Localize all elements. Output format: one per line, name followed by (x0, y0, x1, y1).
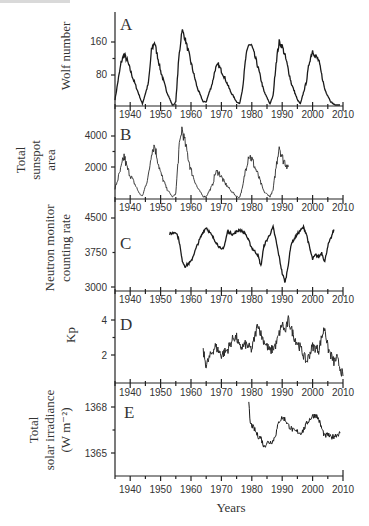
x-tick-label: 1950 (149, 109, 172, 120)
panel-c: C Neutron monitor counting rate 4500 375… (42, 204, 334, 293)
kp-index-line (203, 316, 343, 377)
x-tick-label: 1980 (241, 202, 264, 213)
x-tick-label: 2000 (301, 387, 324, 398)
wolf-number-line (115, 29, 340, 105)
x-tick-label: 1970 (210, 294, 233, 305)
x-tick-label: 2000 (301, 484, 324, 495)
panel-b: B Total sunspot area 4000 2000 (13, 125, 288, 198)
panel-a: A Wolf number 160 80 (58, 15, 340, 105)
x-tick-label: 1950 (149, 294, 172, 305)
x-tick-label: 1960 (180, 109, 203, 120)
y-tick-c-3000: 3000 (85, 282, 108, 293)
x-tick-label: 1970 (210, 484, 233, 495)
x-tick-label: 1990 (271, 109, 294, 120)
x-tick-label: 1950 (149, 387, 172, 398)
x-tick-label: 1970 (210, 387, 233, 398)
x-tick-label: 1990 (271, 387, 294, 398)
panel-letter-e: E (124, 403, 134, 422)
y-tick-e-1368: 1368 (85, 402, 108, 413)
x-tick-label: 1990 (271, 294, 294, 305)
x-tick-label: 1950 (149, 484, 172, 495)
neutron-monitor-line (170, 226, 334, 282)
solar-activity-multipanel-chart: A Wolf number 160 80 B Total sunspot are… (0, 0, 369, 526)
x-tick-label: 1970 (210, 109, 233, 120)
x-tick-label: 1950 (149, 202, 172, 213)
panel-letter-c: C (120, 234, 131, 253)
y-axis-title-a: Wolf number (58, 21, 73, 90)
y-axis-title-c-line2: counting rate (58, 214, 73, 282)
y-axis-title-c-line1: Neutron monitor (42, 204, 57, 292)
y-tick-b-2000: 2000 (85, 162, 108, 173)
panel-letter-a: A (120, 15, 133, 34)
x-tick-label: 1960 (180, 484, 203, 495)
x-tick-label: 1960 (180, 202, 203, 213)
y-tick-c-4500: 4500 (85, 212, 108, 223)
x-tick-label: 1990 (271, 484, 294, 495)
x-tick-label: 1940 (119, 109, 142, 120)
x-tick-label: 2010 (332, 484, 355, 495)
panel-d: D Kp 4 2 (63, 315, 343, 376)
y-axis-title-e-line3: (W m⁻²) (58, 408, 73, 453)
x-tick-label: 2010 (332, 109, 355, 120)
panel-letter-d: D (120, 315, 132, 334)
sunspot-area-line (115, 127, 288, 198)
panel-letter-b: B (120, 125, 131, 144)
x-tick-label: 1960 (180, 387, 203, 398)
x-tick-label: 1990 (271, 202, 294, 213)
x-tick-labels-group: 1940195019601970198019902000201019401950… (119, 109, 354, 495)
y-tick-a-80: 80 (96, 69, 108, 80)
y-axis-title-d: Kp (63, 327, 78, 343)
y-tick-d-2: 2 (101, 350, 107, 361)
x-tick-label: 2000 (301, 294, 324, 305)
y-tick-c-3750: 3750 (85, 247, 108, 258)
y-axis-title-b-line2: sunspot (28, 140, 43, 180)
y-tick-b-4000: 4000 (85, 130, 108, 141)
y-axis-title-e-line2: solar irradiance (42, 390, 57, 471)
x-tick-label: 2010 (332, 387, 355, 398)
y-tick-a-160: 160 (90, 36, 107, 47)
x-tick-label: 1980 (241, 387, 264, 398)
x-tick-label: 1970 (210, 202, 233, 213)
y-tick-d-4: 4 (101, 315, 107, 326)
y-axis-title-e-line1: Total (26, 416, 41, 443)
x-axis-title: Years (216, 500, 245, 515)
x-tick-label: 1940 (119, 294, 142, 305)
x-tick-label: 2000 (301, 202, 324, 213)
x-tick-label: 2010 (332, 202, 355, 213)
y-axis-title-b-line3: area (43, 149, 58, 171)
panel-e: E Total solar irradiance (W m⁻²) 1368 13… (26, 390, 340, 471)
x-tick-label: 2010 (332, 294, 355, 305)
y-axis-title-b-line1: Total (13, 146, 28, 173)
x-tick-label: 1940 (119, 202, 142, 213)
x-tick-label: 1940 (119, 484, 142, 495)
x-tick-label: 1940 (119, 387, 142, 398)
y-tick-e-1365: 1365 (85, 448, 108, 459)
x-tick-label: 1960 (180, 294, 203, 305)
solar-irradiance-line (249, 402, 340, 447)
x-tick-label: 1980 (241, 109, 264, 120)
x-tick-label: 1980 (241, 484, 264, 495)
x-tick-label: 1980 (241, 294, 264, 305)
x-tick-label: 2000 (301, 109, 324, 120)
